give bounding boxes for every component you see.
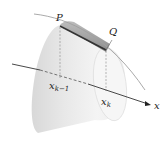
- frustum-diagram: [0, 0, 168, 145]
- label-x-axis: x: [154, 101, 160, 111]
- x-right-subscript: k: [107, 101, 111, 109]
- label-Q: Q: [109, 27, 117, 37]
- x-axis-left: [12, 64, 40, 70]
- label-x-k-minus-1: xk−1: [49, 81, 69, 93]
- x-left-subscript: k−1: [55, 85, 70, 93]
- label-x-k: xk: [101, 97, 111, 109]
- label-P: P: [56, 13, 63, 23]
- x-axis-arrow-icon: [145, 101, 151, 106]
